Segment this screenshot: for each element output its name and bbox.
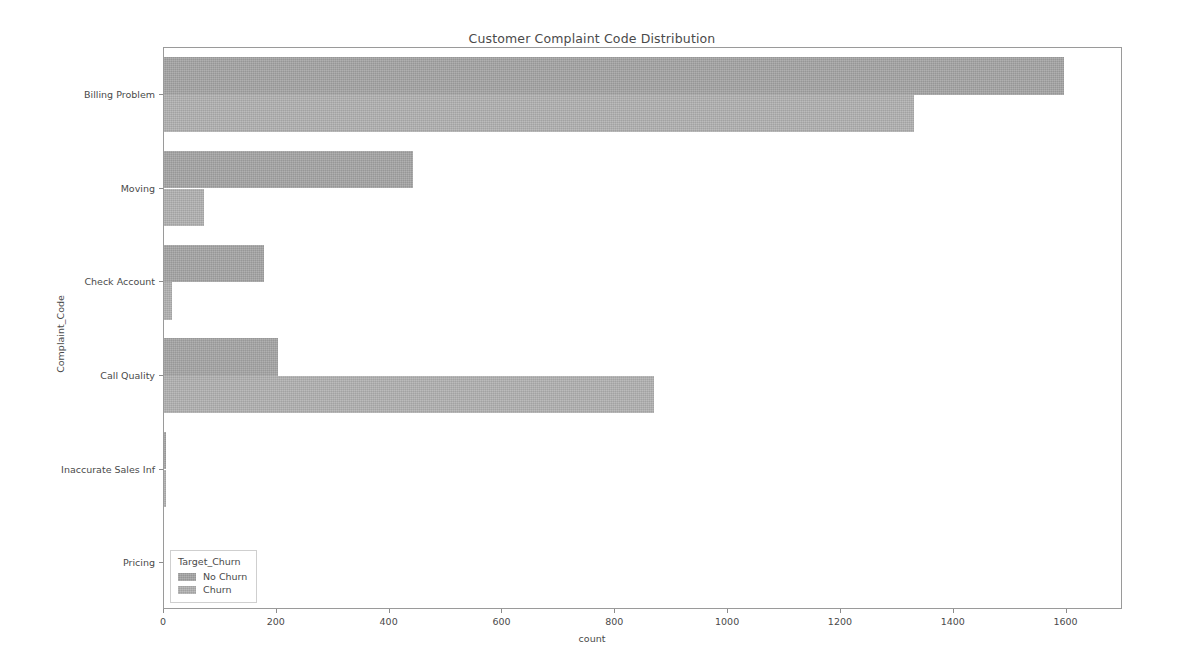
x-axis-tick-mark bbox=[1066, 609, 1067, 613]
y-axis-tick-mark bbox=[159, 375, 163, 376]
y-axis-tick-label: Call Quality bbox=[0, 369, 155, 380]
legend-entry-label: No Churn bbox=[203, 571, 247, 582]
bar bbox=[164, 57, 1064, 94]
y-axis-tick-mark bbox=[159, 281, 163, 282]
x-axis-tick-mark bbox=[501, 609, 502, 613]
bar bbox=[164, 95, 914, 132]
x-axis-tick-mark bbox=[276, 609, 277, 613]
y-axis-tick-label: Moving bbox=[0, 182, 155, 193]
bar bbox=[164, 282, 172, 319]
y-axis-tick-label: Pricing bbox=[0, 557, 155, 568]
legend-entry-list: No ChurnChurn bbox=[178, 570, 247, 596]
plot-area bbox=[163, 47, 1122, 609]
y-axis-tick-mark bbox=[159, 469, 163, 470]
figure-canvas: Customer Complaint Code Distribution Com… bbox=[0, 0, 1184, 667]
legend-color-swatch bbox=[178, 573, 196, 581]
x-axis-title: count bbox=[0, 633, 1184, 644]
bar bbox=[164, 376, 654, 413]
legend-title: Target_Churn bbox=[178, 556, 247, 567]
x-axis-tick-mark bbox=[614, 609, 615, 613]
y-axis-tick-mark bbox=[159, 188, 163, 189]
x-axis-tick-label: 800 bbox=[605, 616, 623, 627]
legend-entry: Churn bbox=[178, 583, 247, 596]
y-axis-tick-mark bbox=[159, 94, 163, 95]
legend-color-swatch bbox=[178, 586, 196, 594]
y-axis-title: Complaint_Code bbox=[55, 295, 66, 373]
x-axis-tick-mark bbox=[953, 609, 954, 613]
bar bbox=[164, 151, 413, 188]
x-axis-tick-label: 400 bbox=[380, 616, 398, 627]
y-axis-tick-label: Inaccurate Sales Inf bbox=[0, 463, 155, 474]
x-axis-tick-label: 600 bbox=[492, 616, 510, 627]
bar bbox=[164, 470, 166, 507]
bar bbox=[164, 245, 264, 282]
bar bbox=[164, 338, 278, 375]
x-axis-tick-label: 200 bbox=[267, 616, 285, 627]
x-axis-tick-mark bbox=[389, 609, 390, 613]
x-axis-tick-label: 1000 bbox=[715, 616, 739, 627]
x-axis-tick-label: 1600 bbox=[1053, 616, 1077, 627]
x-axis-tick-label: 1200 bbox=[828, 616, 852, 627]
chart-title: Customer Complaint Code Distribution bbox=[0, 31, 1184, 46]
y-axis-tick-mark bbox=[159, 562, 163, 563]
x-axis-tick-mark bbox=[840, 609, 841, 613]
y-axis-tick-label: Check Account bbox=[0, 276, 155, 287]
bar bbox=[164, 432, 166, 469]
x-axis-tick-label: 1400 bbox=[941, 616, 965, 627]
y-axis-tick-label: Billing Problem bbox=[0, 88, 155, 99]
x-axis-tick-label: 0 bbox=[160, 616, 166, 627]
x-axis-tick-mark bbox=[163, 609, 164, 613]
legend-entry-label: Churn bbox=[203, 584, 231, 595]
legend: Target_Churn No ChurnChurn bbox=[170, 550, 257, 603]
x-axis-tick-mark bbox=[727, 609, 728, 613]
legend-entry: No Churn bbox=[178, 570, 247, 583]
bar bbox=[164, 189, 204, 226]
